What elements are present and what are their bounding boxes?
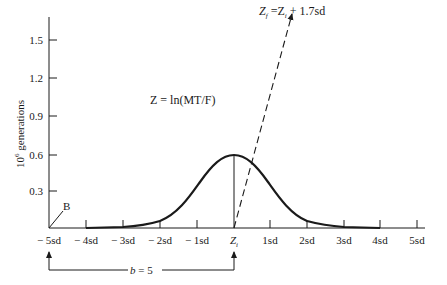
x-tick-label: − 2sd [148,234,173,246]
shift-dashed-arrow [234,14,292,228]
y-axis-title: 106 generations [13,100,26,168]
x-tick-label-zi: Zi [230,234,238,249]
x-tick-label: 1sd [262,234,278,246]
x-tick-label: − 4sd [74,234,99,246]
formula-zf: Zf =Zi + 1.7sd [259,4,325,20]
y-tick-label: 0.9 [29,110,43,122]
point-b-label: B [63,200,70,212]
x-tick-label: 3sd [336,234,352,246]
x-tick-label: − 5sd [37,234,62,246]
distribution-curve [86,155,380,228]
formula-z: Z = ln(MT/F) [150,93,215,107]
x-tick-label: 2sd [299,234,315,246]
y-tick-labels: 0.3 0.6 0.9 1.2 1.5 [29,34,43,197]
x-tick-label: − 1sd [185,234,210,246]
y-tick-label: 1.5 [29,34,43,46]
x-tick-label: − 3sd [111,234,136,246]
x-tick-label: 4sd [372,234,388,246]
diagram-canvas: 0.3 0.6 0.9 1.2 1.5 106 generations − 5s… [0,0,447,285]
y-tick-label: 0.6 [29,149,43,161]
b-bracket: b = 5 [49,252,234,276]
b-bracket-label: b = 5 [130,264,153,276]
x-tick-label: 5sd [409,234,425,246]
y-ticks [49,40,57,191]
y-tick-label: 1.2 [29,72,43,84]
point-b-leader [49,211,63,228]
y-tick-label: 0.3 [29,185,43,197]
x-tick-labels: − 5sd − 4sd − 3sd − 2sd − 1sd Zi 1sd 2sd… [37,234,425,249]
